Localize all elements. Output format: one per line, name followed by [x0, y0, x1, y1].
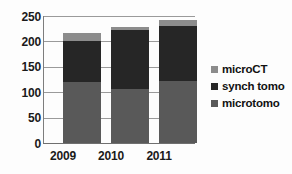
y-axis-tick-0: 0 [7, 138, 41, 150]
bar-segment-synch-tomo [63, 41, 101, 82]
legend-swatch-icon [211, 100, 218, 107]
legend-item-synch-tomo: synch tomo [211, 78, 285, 95]
x-axis-tick-2011: 2011 [129, 150, 189, 162]
bar-stack [159, 20, 197, 143]
bar-stack [111, 27, 149, 143]
y-axis-line [43, 16, 44, 144]
y-axis-tick-200: 200 [7, 36, 41, 48]
x-axis-line [43, 143, 195, 144]
bar-segment-synch-tomo [159, 26, 197, 80]
y-axis-tick-50: 50 [7, 112, 41, 124]
bar-group-2009 [63, 33, 101, 143]
legend-item-microct: microCT [211, 61, 285, 78]
y-axis-tick-250: 250 [7, 11, 41, 23]
bar-segment-microtomo [111, 89, 149, 143]
legend-swatch-icon [211, 83, 218, 90]
bar-segment-microct [63, 33, 101, 41]
chart-legend: microCT synch tomo microtomo [211, 61, 285, 112]
legend-swatch-icon [211, 66, 218, 73]
bar-segment-microtomo [159, 81, 197, 144]
bar-group-2010 [111, 27, 149, 143]
y-axis-tick-100: 100 [7, 87, 41, 99]
bar-segment-microtomo [63, 82, 101, 143]
legend-item-label: synch tomo [222, 81, 285, 93]
bar-segment-synch-tomo [111, 30, 149, 89]
bar-group-2011 [159, 20, 197, 143]
plot-area [43, 16, 195, 144]
stacked-bar-chart: 250 200 150 100 50 0 [0, 0, 292, 174]
y-axis-tick-150: 150 [7, 61, 41, 73]
legend-item-label: microCT [222, 64, 267, 76]
gridline-250 [43, 16, 195, 17]
legend-item-label: microtomo [222, 98, 280, 110]
bar-stack [63, 33, 101, 143]
legend-item-microtomo: microtomo [211, 95, 285, 112]
